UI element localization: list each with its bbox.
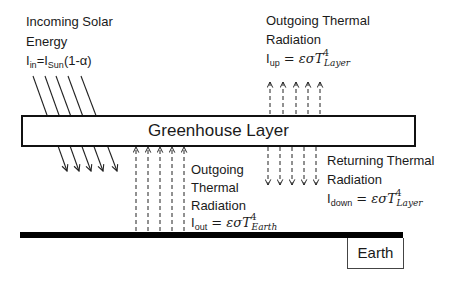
returning-arrows (268, 147, 316, 185)
eq-subscript-layer: Layer (324, 58, 350, 68)
eq-subscript: in (30, 60, 37, 70)
eq-subscript: up (270, 58, 280, 68)
eq-exponent: 4 (251, 212, 257, 222)
incoming-solar-equation: Iin=ISun(1-α) (26, 52, 92, 74)
returning-equation: Idown = εσT4Layer (327, 190, 423, 212)
outgoing-earth-label-2: Thermal (191, 179, 239, 196)
eq-subscript-earth: Earth (252, 222, 278, 232)
eq-subscript: out (195, 222, 208, 232)
earth-surface-line (20, 232, 403, 238)
eq-albedo-term: (1-α) (64, 53, 92, 68)
eq-subscript-layer: Layer (397, 198, 423, 208)
eq-exponent: 4 (323, 48, 329, 58)
eq-stefan-boltzmann: = εσT (280, 51, 324, 66)
eq-subscript: down (331, 198, 353, 208)
returning-label-1: Returning Thermal (327, 152, 434, 169)
eq-subscript: Sun (48, 60, 64, 70)
outgoing-layer-label-1: Outgoing Thermal (266, 12, 370, 29)
outgoing-earth-arrows (136, 147, 184, 231)
eq-stefan-boltzmann: = εσT (352, 191, 396, 206)
outgoing-layer-equation: Iup = εσT4Layer (266, 50, 350, 72)
incoming-solar-label-2: Energy (26, 33, 67, 50)
eq-exponent: 4 (396, 188, 402, 198)
eq-stefan-boltzmann: = εσT (207, 215, 251, 230)
earth-label: Earth (348, 244, 403, 261)
earth-box: Earth (347, 238, 404, 269)
outgoing-layer-arrows (270, 82, 320, 114)
outgoing-earth-label-3: Radiation (191, 197, 246, 214)
outgoing-earth-label-1: Outgoing (191, 161, 244, 178)
outgoing-layer-label-2: Radiation (266, 31, 321, 48)
incoming-solar-label-1: Incoming Solar (26, 13, 113, 30)
greenhouse-layer-label: Greenhouse Layer (23, 121, 414, 141)
greenhouse-layer-box: Greenhouse Layer (21, 115, 416, 147)
eq-symbol: =I (37, 53, 48, 68)
returning-label-2: Radiation (327, 171, 382, 188)
